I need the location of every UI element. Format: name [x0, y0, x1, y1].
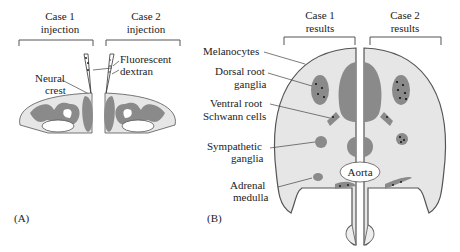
neural-crest-label-1: Neural — [35, 72, 65, 84]
symp-label-2: ganglia — [231, 152, 263, 164]
melanocytes-label: Melanocytes — [203, 45, 259, 57]
fluorescent-label-2: dextran — [120, 65, 153, 77]
panel-a: Case 1 injection Case 2 injection Fluore… — [14, 10, 180, 225]
case1-results-title-2: results — [306, 22, 335, 34]
case1-bracket — [19, 40, 93, 46]
drg-label-2: ganglia — [234, 78, 266, 90]
case2-results-title-1: Case 2 — [390, 9, 420, 21]
case2-results-title-2: results — [391, 22, 420, 34]
case2-injection-title-2: injection — [127, 23, 166, 35]
symp-label-1: Sympathetic — [207, 140, 262, 152]
case1-results-title-1: Case 1 — [305, 9, 335, 21]
case1-injection-title-1: Case 1 — [45, 10, 75, 22]
case1-results-bracket — [284, 37, 355, 45]
fluorescent-label-1: Fluorescent — [120, 53, 171, 65]
vr-label-2: Schwann cells — [203, 110, 266, 122]
needle-case1 — [84, 54, 91, 94]
embryo-cross-section: Aorta — [274, 48, 445, 245]
adrenal-label-2: medulla — [233, 191, 269, 203]
case2-results-bracket — [370, 37, 441, 45]
neural-crest-label-2: crest — [45, 84, 66, 96]
drg-label-1: Dorsal root — [215, 65, 265, 77]
case2-bracket — [106, 40, 180, 46]
aorta-label: Aorta — [347, 166, 372, 178]
panel-a-tag: (A) — [14, 212, 30, 225]
embryo-case1-section — [20, 93, 93, 133]
case1-injection-title-2: injection — [41, 23, 80, 35]
neural-crest-diagram: Case 1 injection Case 2 injection Fluore… — [0, 0, 460, 252]
adrenal-label-1: Adrenal — [230, 179, 265, 191]
case2-injection-title-1: Case 2 — [131, 10, 161, 22]
panel-b-tag: (B) — [207, 212, 222, 225]
embryo-case2-section — [104, 93, 175, 133]
panel-b: Case 1 results Case 2 results — [203, 9, 446, 245]
vr-label-1: Ventral root — [210, 97, 262, 109]
